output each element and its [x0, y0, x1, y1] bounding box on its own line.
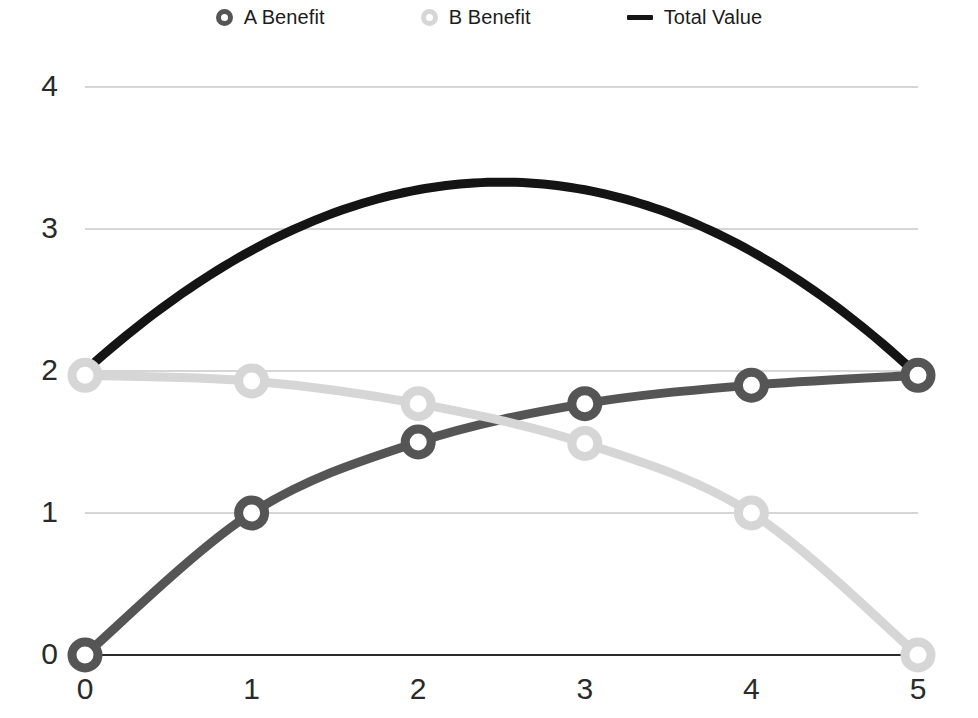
- y-tick-label: 0: [41, 637, 58, 670]
- x-tick-label: 0: [77, 672, 94, 705]
- plot-area: 01234 012345: [0, 0, 978, 718]
- y-tick-labels: 01234: [41, 69, 58, 670]
- data-point-marker: [738, 500, 764, 526]
- data-point-marker: [72, 642, 98, 668]
- data-point-marker: [572, 391, 598, 417]
- x-tick-labels: 012345: [77, 672, 927, 705]
- data-point-marker: [239, 500, 265, 526]
- data-point-marker: [239, 368, 265, 394]
- data-point-marker: [405, 391, 431, 417]
- y-tick-label: 4: [41, 69, 58, 102]
- data-point-marker: [905, 362, 931, 388]
- x-tick-label: 1: [243, 672, 260, 705]
- series-layer: [85, 182, 918, 655]
- data-point-marker: [72, 362, 98, 388]
- data-point-marker: [405, 429, 431, 455]
- gridlines: [85, 87, 918, 513]
- y-tick-label: 1: [41, 495, 58, 528]
- x-tick-label: 3: [576, 672, 593, 705]
- data-point-marker: [572, 430, 598, 456]
- markers-layer: [72, 362, 931, 668]
- x-tick-label: 5: [910, 672, 927, 705]
- y-tick-label: 3: [41, 211, 58, 244]
- data-point-marker: [738, 372, 764, 398]
- x-tick-label: 4: [743, 672, 760, 705]
- y-tick-label: 2: [41, 353, 58, 386]
- chart-container: A Benefit B Benefit Total Value 01234 01…: [0, 0, 978, 718]
- x-tick-label: 2: [410, 672, 427, 705]
- data-point-marker: [905, 642, 931, 668]
